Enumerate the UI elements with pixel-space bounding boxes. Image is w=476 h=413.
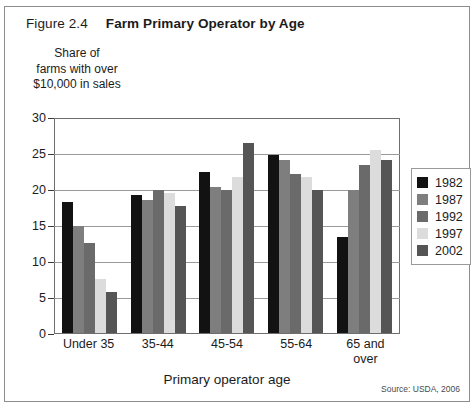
bar-1992-55-64 xyxy=(290,174,301,333)
bar-group xyxy=(261,119,330,333)
y-tick-mark-20 xyxy=(48,190,54,191)
x-tick-label: 65 andover xyxy=(331,337,400,366)
bar-1992-45-54 xyxy=(221,190,232,333)
bar-1997-45-54 xyxy=(232,177,243,333)
y-axis-title: Share of farms with over $10,000 in sale… xyxy=(14,46,140,93)
bar-groups xyxy=(55,119,399,333)
bar-group xyxy=(193,119,262,333)
bar-1982-35-44 xyxy=(131,195,142,333)
legend-swatch-icon-2002 xyxy=(417,245,428,256)
x-tick-label: 55-64 xyxy=(262,337,331,366)
y-tick-mark-25 xyxy=(48,154,54,155)
bar-1992-65-and-over xyxy=(359,165,370,333)
y-tick-mark-10 xyxy=(48,262,54,263)
bar-1982-45-54 xyxy=(199,172,210,333)
x-tick-label: Under 35 xyxy=(54,337,123,366)
figure-screenshot: Figure 2.4Farm Primary Operator by Age S… xyxy=(0,0,476,413)
bar-2002-under-35 xyxy=(106,292,117,333)
y-tick-label-20: 20 xyxy=(0,183,46,197)
legend-label-1987: 1987 xyxy=(435,193,463,207)
bar-1987-35-44 xyxy=(142,200,153,333)
figure-title-row: Figure 2.4Farm Primary Operator by Age xyxy=(26,14,305,32)
plot-area-wrapper xyxy=(54,118,400,334)
legend-item-1997: 1997 xyxy=(417,225,463,242)
legend-label-1982: 1982 xyxy=(435,176,463,190)
x-axis-title: Primary operator age xyxy=(54,372,400,387)
y-axis-title-line-2: farms with over xyxy=(14,62,140,78)
x-axis-tick-labels: Under 3535-4445-5455-6465 andover xyxy=(54,337,400,366)
y-tick-label-5: 5 xyxy=(0,291,46,305)
bar-1982-55-64 xyxy=(268,155,279,333)
y-tick-label-30: 30 xyxy=(0,111,46,125)
legend-item-1992: 1992 xyxy=(417,208,463,225)
y-tick-label-0: 0 xyxy=(0,327,46,341)
legend-swatch-icon-1997 xyxy=(417,228,428,239)
y-axis-title-line-1: Share of xyxy=(14,46,140,62)
bar-2002-45-54 xyxy=(243,143,254,333)
x-tick-label: 45-54 xyxy=(192,337,261,366)
x-tick-label: 35-44 xyxy=(123,337,192,366)
y-tick-label-25: 25 xyxy=(0,147,46,161)
bar-group xyxy=(55,119,124,333)
bar-1997-under-35 xyxy=(95,279,106,333)
y-axis-title-line-3: $10,000 in sales xyxy=(14,77,140,93)
legend-label-1997: 1997 xyxy=(435,227,463,241)
y-tick-label-15: 15 xyxy=(0,219,46,233)
y-tick-label-10: 10 xyxy=(0,255,46,269)
bar-1982-under-35 xyxy=(62,202,73,333)
bar-2002-35-44 xyxy=(175,206,186,333)
bar-group xyxy=(124,119,193,333)
legend: 19821987199219972002 xyxy=(411,168,471,265)
legend-label-2002: 2002 xyxy=(435,244,463,258)
y-tick-mark-5 xyxy=(48,298,54,299)
legend-swatch-icon-1992 xyxy=(417,211,428,222)
bar-1987-55-64 xyxy=(279,160,290,333)
bar-1997-65-and-over xyxy=(370,150,381,333)
y-tick-mark-30 xyxy=(48,118,54,119)
bar-1987-45-54 xyxy=(210,187,221,333)
bar-2002-55-64 xyxy=(312,190,323,333)
bar-1992-under-35 xyxy=(84,243,95,333)
legend-swatch-icon-1987 xyxy=(417,194,428,205)
bar-1987-65-and-over xyxy=(348,190,359,333)
bar-group xyxy=(330,119,399,333)
figure-number: Figure 2.4 xyxy=(26,16,88,31)
legend-swatch-icon-1982 xyxy=(417,177,428,188)
bar-1987-under-35 xyxy=(73,226,84,333)
source-note: Source: USDA, 2006 xyxy=(381,384,460,394)
legend-item-2002: 2002 xyxy=(417,242,463,259)
bar-1997-35-44 xyxy=(164,193,175,333)
bar-2002-65-and-over xyxy=(381,160,392,333)
legend-item-1987: 1987 xyxy=(417,191,463,208)
legend-label-1992: 1992 xyxy=(435,210,463,224)
bar-1992-35-44 xyxy=(153,190,164,333)
legend-item-1982: 1982 xyxy=(417,174,463,191)
y-tick-mark-0 xyxy=(48,334,54,335)
page-title: Farm Primary Operator by Age xyxy=(106,16,305,31)
y-tick-mark-15 xyxy=(48,226,54,227)
bar-1997-55-64 xyxy=(301,177,312,333)
bar-1982-65-and-over xyxy=(337,237,348,333)
